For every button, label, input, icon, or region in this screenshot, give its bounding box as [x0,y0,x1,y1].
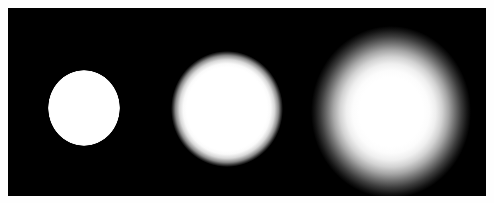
sharp-disc [48,70,120,146]
heavy-blur-disc [311,26,471,196]
black-panel [8,8,486,196]
medium-blur-disc [171,51,283,167]
figure-root [0,0,494,203]
